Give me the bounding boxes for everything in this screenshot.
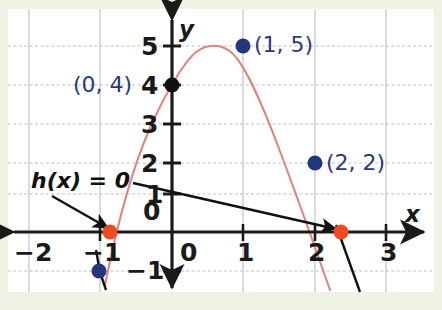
bottom-margin-band (0, 292, 442, 310)
root-point-right[interactable] (334, 225, 349, 240)
data-point-neg1-neg1[interactable] (92, 264, 107, 279)
coordinate-plane (0, 0, 442, 310)
root-point-left[interactable] (103, 225, 118, 240)
data-point-1-5[interactable] (236, 39, 251, 54)
plot-panel (8, 9, 434, 292)
data-point-2-2[interactable] (308, 156, 323, 171)
graph-figure: 5 4 3 2 1 0 −1 −2 −1 0 1 2 3 y x (0, 4) … (0, 0, 442, 310)
top-margin-band (0, 0, 442, 9)
data-point-0-4[interactable] (165, 78, 180, 93)
left-margin-band (0, 0, 8, 310)
right-margin-band (434, 0, 442, 310)
